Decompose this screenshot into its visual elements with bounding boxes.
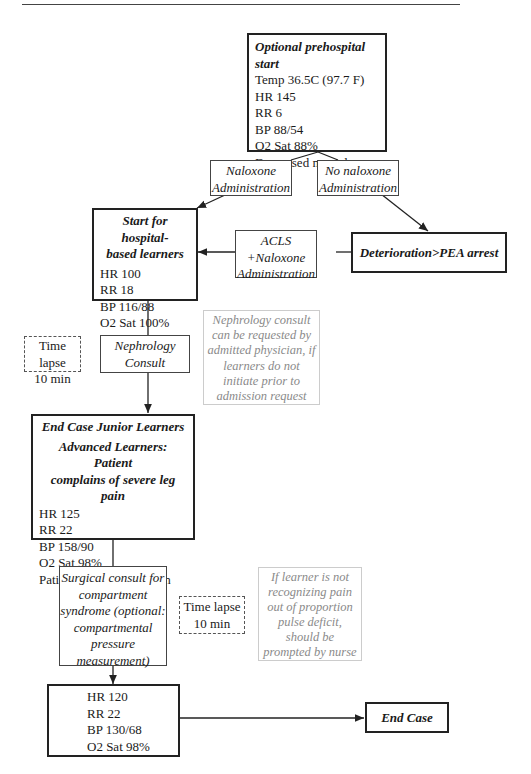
label-line: Time lapse [25,338,80,371]
label-line: ACLS [236,233,316,250]
node-end-case-junior: End Case Junior Learners Advanced Learne… [31,414,195,540]
vital-hr: HR 100 [100,266,190,283]
label-line: Naloxone [211,163,291,180]
label-line: Administration [318,180,398,197]
label-line: Consult [101,355,189,372]
vital-bp: BP 158/90 [39,539,187,556]
node-acls-naloxone: ACLS +Naloxone Administration [235,230,317,278]
vital-bp: BP 130/68 [87,722,178,739]
vital-rr: RR 18 [100,282,190,299]
node-title: End Case Junior Learners [39,419,187,436]
label-line: compartment [60,587,166,604]
vital-o2: O2 Sat 98% [87,739,178,756]
label-line: compartmental [60,620,166,637]
vital-temp: Temp 36.5C (97.7 F) [255,72,379,89]
note-nephrology: Nephrology consult can be requested by a… [203,310,320,405]
vital-bp: BP 116/88 [100,299,190,316]
vital-rr: RR 22 [39,522,187,539]
vital-bp: BP 88/54 [255,122,379,139]
node-pea-arrest: Deterioration>PEA arrest [351,232,507,273]
vital-rr: RR 6 [255,105,379,122]
node-prehospital-start: Optional prehospital start Temp 36.5C (9… [247,33,387,152]
note-line: initiate prior to [204,374,319,389]
edge-no-naloxone-to-pea [381,194,428,231]
label-line: +Naloxone [236,250,316,267]
note-line: Nephrology consult [204,313,319,328]
node-final-vitals: HR 120 RR 22 BP 130/68 O2 Sat 98% [47,684,180,757]
node-hospital-start: Start for hospital- based learners HR 10… [92,208,198,301]
node-naloxone-administration: Naloxone Administration [210,160,292,196]
label-line: syndrome (optional: [60,603,166,620]
note-line: should be [259,630,361,645]
label-line: Surgical consult for [60,570,166,587]
note-line: prompted by nurse [259,645,361,660]
vital-hr: HR 125 [39,506,187,523]
vital-hr: HR 145 [255,89,379,106]
node-subtitle: complains of severe leg pain [39,472,187,505]
note-line: learners do not [204,359,319,374]
edge-naloxone-to-hospital [197,195,225,208]
note-line: admitted physician, if [204,343,319,358]
node-end-case: End Case [365,702,449,733]
note-line: admission request [204,389,319,404]
note-line: recognizing pain [259,585,361,600]
node-title: based learners [100,246,190,263]
note-nurse-prompt: If learner is not recognizing pain out o… [258,567,362,661]
note-line: If learner is not [259,570,361,585]
node-surgical-consult: Surgical consult for compartment syndrom… [59,566,167,666]
node-nephrology-consult: Nephrology Consult [100,335,190,373]
node-time-lapse-2: Time lapse 10 min [179,596,245,634]
note-line: out of proportion [259,600,361,615]
node-title: Optional prehospital start [255,39,379,72]
node-subtitle: Advanced Learners: Patient [39,439,187,472]
vital-rr: RR 22 [87,706,178,723]
label-line: Nephrology [101,338,189,355]
vital-hr: HR 120 [87,689,178,706]
note-line: can be requested by [204,328,319,343]
label-line: Administration [211,180,291,197]
label-line: Administration [236,266,316,283]
label-line: 10 min [180,616,244,633]
node-no-naloxone-administration: No naloxone Administration [317,160,399,196]
label-line: Time lapse [180,599,244,616]
node-time-lapse-1: Time lapse 10 min [24,336,81,372]
label-line: pressure [60,636,166,653]
vital-o2: O2 Sat 100% [100,315,190,332]
vital-o2: O2 Sat 88% [255,138,379,155]
node-title: End Case [367,710,447,727]
label-line: No naloxone [318,163,398,180]
label-line: 10 min [25,371,80,388]
node-title: Start for hospital- [100,213,190,246]
node-title: Deterioration>PEA arrest [353,245,505,262]
note-line: pulse deficit, [259,615,361,630]
label-line: measurement) [60,653,166,670]
